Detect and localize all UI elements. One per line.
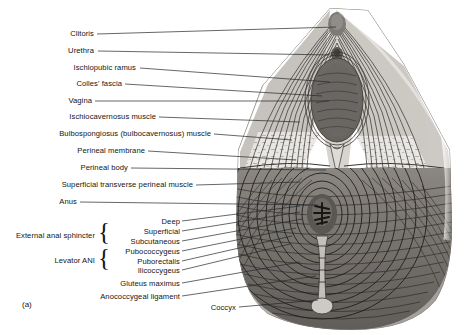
label-vagina: Vagina: [0, 96, 92, 105]
label-perineal-membrane: Perineal membrane: [0, 146, 145, 155]
label-superficial-transverse-perineal-muscle: Superficial transverse perineal muscle: [0, 180, 193, 189]
label-superficial: Superficial: [60, 227, 180, 236]
figure-caption: (a): [22, 300, 32, 309]
label-coccyx: Coccyx: [180, 303, 236, 312]
label-perineal-body: Perineal body: [0, 163, 128, 172]
label-colles-fascia: Colles' fascia: [0, 79, 122, 88]
label-anus: Anus: [0, 197, 77, 206]
label-anococcygeal-ligament: Anococcygeal ligament: [40, 292, 180, 301]
label-ischiopubic-ramus: Ischiopubic ramus: [0, 63, 136, 72]
label-urethra: Urethra: [0, 46, 94, 55]
label-pubococcygeus: Pubococcygeus: [60, 247, 180, 256]
label-ilicoccygeus: Ilicoccygeus: [60, 266, 180, 275]
label-subcutaneous: Subcutaneous: [60, 237, 180, 246]
label-ischiocavernosus-muscle: Ischiocavernosus muscle: [0, 112, 156, 121]
label-gluteus-maximus: Gluteus maximus: [60, 279, 180, 288]
label-clitoris: Clitoris: [0, 29, 94, 38]
anatomical-figure: Clitoris Urethra Ischiopubic ramus Colle…: [0, 0, 469, 335]
label-bulbospongiosus-muscle: Bulbospongiosus (bulbocavernosus) muscle: [0, 129, 211, 138]
label-deep: Deep: [60, 217, 180, 226]
label-puborectalis: Puborectalis: [60, 257, 180, 266]
